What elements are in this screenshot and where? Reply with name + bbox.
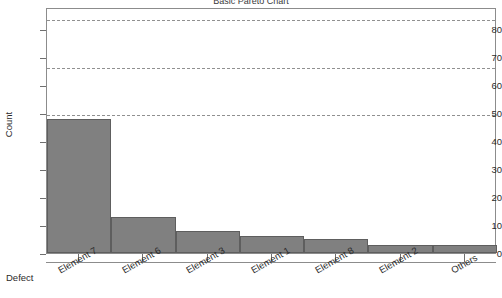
y-axis-tick-label: 10 bbox=[468, 220, 502, 231]
y-axis-tick-label: 60 bbox=[468, 80, 502, 91]
chart-title: Basic Pareto Chart bbox=[0, 0, 502, 6]
y-axis-tick bbox=[40, 58, 46, 59]
y-axis-tick bbox=[40, 254, 46, 255]
pareto-chart: Basic Pareto Chart 01020304050607080 Cou… bbox=[0, 0, 502, 298]
y-axis-tick bbox=[40, 142, 46, 143]
bar bbox=[240, 236, 304, 253]
y-axis-tick bbox=[40, 226, 46, 227]
plot-area bbox=[47, 9, 495, 253]
bars-layer bbox=[47, 9, 495, 253]
y-axis-tick bbox=[40, 170, 46, 171]
y-axis-tick-label: 50 bbox=[468, 108, 502, 119]
y-axis-tick bbox=[40, 198, 46, 199]
bar bbox=[47, 119, 111, 253]
plot-frame bbox=[46, 8, 496, 254]
y-axis-tick-label: 80 bbox=[468, 24, 502, 35]
x-axis-title: Defect bbox=[6, 272, 33, 283]
bar bbox=[111, 217, 175, 253]
y-axis-line bbox=[46, 8, 47, 254]
y-axis-title: Count bbox=[3, 95, 14, 155]
y-axis-tick bbox=[40, 30, 46, 31]
bar bbox=[304, 239, 368, 253]
y-axis-tick bbox=[40, 86, 46, 87]
bar bbox=[176, 231, 240, 253]
y-axis-tick-label: 20 bbox=[468, 192, 502, 203]
y-axis-tick-label: 70 bbox=[468, 52, 502, 63]
y-axis-tick-label: 40 bbox=[468, 136, 502, 147]
y-axis-tick bbox=[40, 114, 46, 115]
y-axis-tick-label: 30 bbox=[468, 164, 502, 175]
